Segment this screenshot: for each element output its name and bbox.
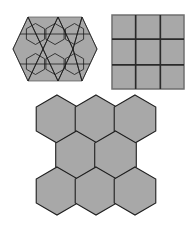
figure-canvas: [0, 0, 191, 235]
tessellation-body: [13, 17, 97, 81]
grid-svg: [111, 14, 185, 90]
hexagon-svg: [26, 94, 166, 228]
grid-background: [112, 15, 184, 89]
tessellation-outline: [13, 17, 97, 81]
figure-triangle-hexagon-tessellation: [10, 14, 100, 84]
figure-square-grid: [111, 14, 185, 90]
figure-hexagon-tessellation: [26, 94, 166, 228]
hexagon-cells: [36, 95, 156, 215]
tessellation-svg: [10, 14, 100, 84]
